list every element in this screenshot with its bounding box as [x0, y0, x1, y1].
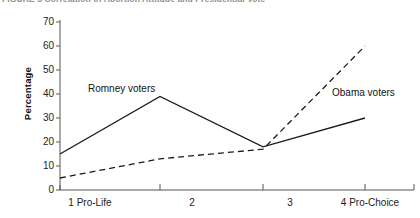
- axis-lines: [60, 20, 414, 190]
- line-chart: Percentage 70 60 50 40 30 20 10 0 1 Pro-…: [0, 0, 420, 218]
- x-axis-ticks: [60, 184, 414, 190]
- series-line-romney: [60, 96, 365, 154]
- chart-screenshot: FIGURE 5 Correlation of Abortion Attitud…: [0, 0, 420, 218]
- series-line-obama: [60, 46, 365, 178]
- y-axis-ticks: [56, 22, 60, 190]
- plot-canvas: [0, 0, 420, 218]
